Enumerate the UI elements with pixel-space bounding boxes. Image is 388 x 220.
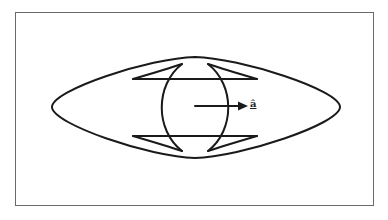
lens-diagram: [0, 0, 388, 220]
inner-right-arc: [208, 64, 228, 151]
diagram-figure: â: [0, 0, 388, 220]
arrow-head-icon: [238, 102, 248, 111]
inner-left-arc: [162, 64, 182, 151]
vector-label: â: [250, 99, 256, 109]
outer-lens-shape: [52, 57, 340, 158]
